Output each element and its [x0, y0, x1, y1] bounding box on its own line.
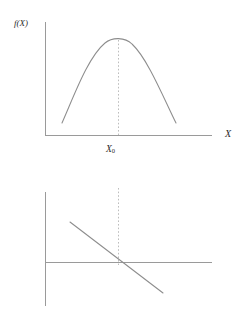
x0-tick-subscript-top: 0: [112, 147, 115, 154]
function-plot-panel: f(X) X X0: [0, 0, 246, 170]
derivative-line: [70, 222, 163, 293]
y-axis-label-top: f(X): [14, 19, 28, 28]
x-axis-label-top: X: [225, 129, 231, 139]
function-plot-svg: [0, 0, 246, 170]
derivative-plot-svg: [0, 170, 246, 324]
figure-container: f(X) X X0 f′(X) X X0: [0, 0, 246, 324]
x0-tick-label-top: X0: [106, 145, 115, 155]
derivative-plot-panel: f′(X) X X0: [0, 170, 246, 324]
